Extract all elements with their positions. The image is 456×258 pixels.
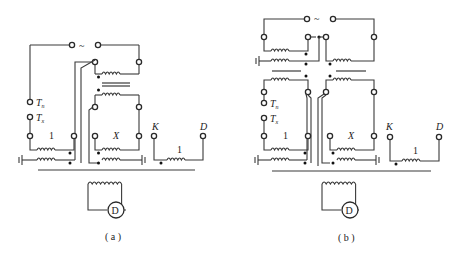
- svg-text:1: 1: [413, 145, 418, 156]
- source-terminal-left[interactable]: [304, 16, 309, 21]
- upper-primary-terminal-right[interactable]: [136, 59, 141, 64]
- detector-circuit-b: D ( b ): [272, 171, 431, 244]
- svg-text:Tn: Tn: [270, 98, 279, 110]
- test-winding-label: X: [112, 130, 120, 141]
- test-transformer-b: X: [327, 130, 379, 165]
- svg-text:K: K: [151, 121, 160, 132]
- upper-left-transformer-b: [256, 34, 377, 71]
- mr-terminal-left[interactable]: [323, 89, 328, 94]
- upper-right-transformer-b: [326, 40, 374, 71]
- caption-a: ( a ): [105, 231, 121, 243]
- svg-text:Tn: Tn: [36, 97, 45, 109]
- terminal-d[interactable]: [436, 134, 441, 139]
- ul-terminal-right[interactable]: [305, 34, 310, 39]
- terminal-tn[interactable]: [27, 99, 32, 104]
- svg-text:D: D: [346, 205, 353, 216]
- tn-tx-terminals-b: Tn Tx: [261, 98, 278, 133]
- test-terminal-right[interactable]: [371, 133, 376, 138]
- upper-secondary-terminal-right[interactable]: [136, 104, 141, 109]
- caption-b: ( b ): [338, 232, 355, 244]
- kd-winding-a: K D 1: [151, 121, 208, 165]
- source-terminal-left[interactable]: [69, 42, 74, 47]
- upper-secondary-terminal-left[interactable]: [92, 104, 97, 109]
- ac-source-symbol: ~: [79, 40, 85, 51]
- middle-transformers-b: [261, 75, 376, 167]
- kd-winding-b: K D 1: [385, 121, 444, 166]
- terminal-tn[interactable]: [261, 100, 266, 105]
- std-terminal-left[interactable]: [27, 133, 32, 138]
- svg-text:K: K: [385, 121, 394, 132]
- terminal-tx[interactable]: [261, 115, 266, 120]
- svg-text:D: D: [112, 205, 119, 216]
- ac-source-a: ~: [30, 40, 139, 99]
- svg-text:Tx: Tx: [36, 112, 45, 124]
- mr-terminal-right[interactable]: [371, 89, 376, 94]
- upper-transformer-a: [92, 59, 141, 109]
- figure-a: ~: [19, 40, 208, 243]
- ur-terminal-left[interactable]: [323, 34, 328, 39]
- transformer-test-circuits: ~: [0, 0, 456, 258]
- svg-text:Tx: Tx: [270, 113, 279, 125]
- standard-winding-label: 1: [49, 130, 54, 141]
- ul-terminal-left[interactable]: [261, 34, 266, 39]
- test-transformer-a: X: [92, 130, 145, 165]
- source-terminal-right[interactable]: [95, 42, 100, 47]
- figure-b: ~: [255, 13, 444, 244]
- std-terminal-right[interactable]: [71, 133, 76, 138]
- standard-transformer-a: 1: [19, 130, 77, 165]
- svg-text:1: 1: [177, 144, 182, 155]
- tn-tx-terminals-a: Tn Tx: [27, 97, 44, 133]
- detector-circuit-a: D ( a ): [38, 170, 195, 243]
- ac-source-b: ~: [264, 13, 374, 34]
- source-terminal-right[interactable]: [330, 16, 335, 21]
- svg-text:X: X: [347, 130, 355, 141]
- standard-transformer-b: 1: [255, 130, 311, 165]
- svg-text:~: ~: [314, 13, 320, 24]
- svg-text:1: 1: [283, 130, 288, 141]
- test-terminal-left[interactable]: [92, 133, 97, 138]
- terminal-k[interactable]: [387, 134, 392, 139]
- test-terminal-right[interactable]: [136, 133, 141, 138]
- svg-text:D: D: [199, 121, 208, 132]
- terminal-tx[interactable]: [27, 114, 32, 119]
- ml-terminal-left[interactable]: [261, 89, 266, 94]
- std-terminal-right[interactable]: [305, 133, 310, 138]
- ml-terminal-right[interactable]: [305, 89, 310, 94]
- terminal-d[interactable]: [200, 133, 205, 138]
- svg-text:D: D: [435, 121, 444, 132]
- test-terminal-left[interactable]: [327, 133, 332, 138]
- std-terminal-left[interactable]: [261, 133, 266, 138]
- terminal-k[interactable]: [151, 133, 156, 138]
- coil-icon: [102, 72, 120, 74]
- ur-terminal-right[interactable]: [371, 34, 376, 39]
